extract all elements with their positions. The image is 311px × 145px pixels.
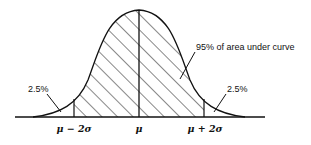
- right-tail-label: 2.5%: [227, 84, 248, 94]
- axis-label-minus-2sigma: μ − 2σ: [56, 123, 91, 134]
- left-tail-label: 2.5%: [28, 84, 49, 94]
- normal-curve-diagram: 2.5% 2.5% 95% of area under curve μ − 2σ…: [0, 0, 311, 145]
- center-area-label: 95% of area under curve: [196, 42, 295, 52]
- axis-label-mu: μ: [136, 123, 143, 134]
- left-tail-leader: [47, 94, 61, 112]
- right-tail-leader: [214, 94, 226, 112]
- axis-label-plus-2sigma: μ + 2σ: [187, 123, 222, 134]
